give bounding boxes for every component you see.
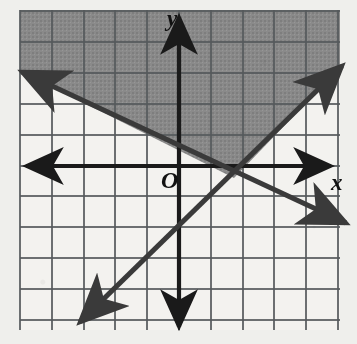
y-axis-label: y [164, 6, 178, 31]
coordinate-plane: Oxy [0, 0, 357, 344]
origin-label: O [161, 167, 178, 193]
x-axis-label: x [330, 170, 343, 195]
graph-figure: Oxy [0, 0, 357, 344]
